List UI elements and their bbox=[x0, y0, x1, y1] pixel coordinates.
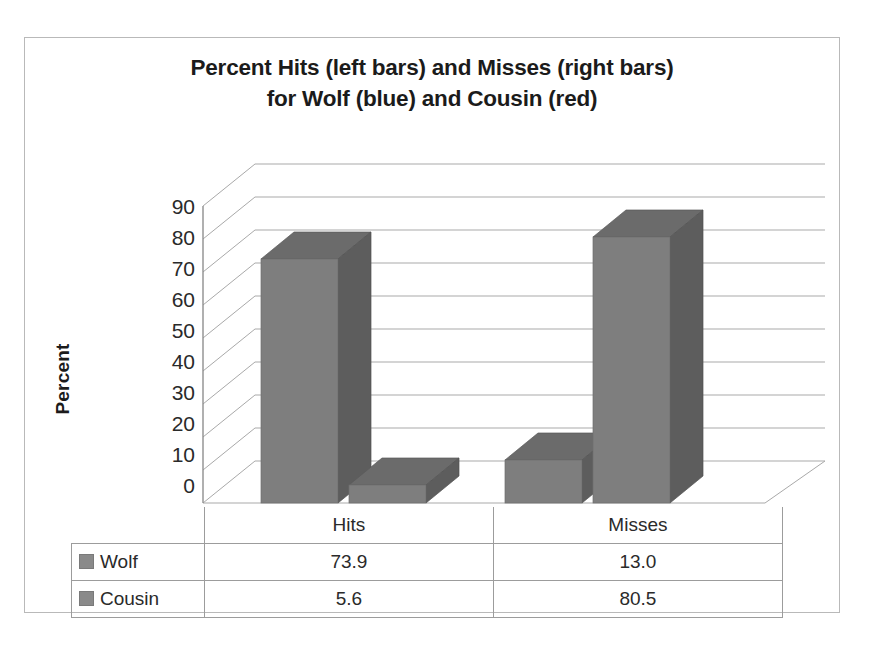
table-row: Cousin 5.6 80.5 bbox=[72, 581, 783, 618]
bar-side-face bbox=[670, 210, 703, 503]
floor-right-edge bbox=[765, 461, 825, 503]
table-row: Wolf 73.9 13.0 bbox=[72, 544, 783, 581]
bar-front-face bbox=[261, 259, 338, 503]
gridline-90 bbox=[203, 164, 825, 206]
legend-label-cousin: Cousin bbox=[100, 588, 159, 609]
legend-label-wolf: Wolf bbox=[100, 551, 138, 572]
bar-wolf-hits bbox=[261, 232, 371, 503]
legend-swatch-icon bbox=[79, 554, 94, 569]
bar-front-face bbox=[593, 237, 670, 503]
cell-cousin-misses: 80.5 bbox=[493, 581, 782, 618]
table-column-header-misses: Misses bbox=[493, 507, 782, 544]
legend-item-cousin: Cousin bbox=[72, 581, 205, 618]
bar-side-face bbox=[338, 232, 371, 503]
legend-swatch-icon bbox=[79, 591, 94, 606]
cell-wolf-misses: 13.0 bbox=[493, 544, 782, 581]
cell-wolf-hits: 73.9 bbox=[205, 544, 494, 581]
data-table: Hits Misses Wolf 73.9 13.0 Cousin 5.6 80… bbox=[71, 507, 783, 618]
legend-item-wolf: Wolf bbox=[72, 544, 205, 581]
cell-cousin-hits: 5.6 bbox=[205, 581, 494, 618]
table-header-row: Hits Misses bbox=[72, 507, 783, 544]
bar-front-face bbox=[349, 485, 426, 503]
bar-front-face bbox=[505, 460, 582, 503]
table-corner-cell bbox=[72, 507, 205, 544]
chart-frame: Percent Hits (left bars) and Misses (rig… bbox=[24, 37, 840, 613]
bar-cousin-misses bbox=[593, 210, 703, 503]
table-column-header-hits: Hits bbox=[205, 507, 494, 544]
